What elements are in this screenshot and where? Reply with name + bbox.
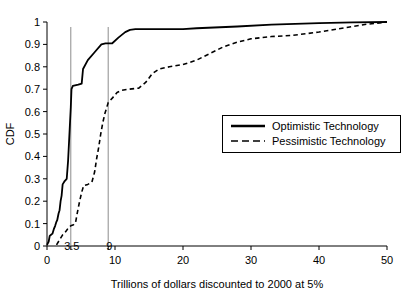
- x-axis-title: Trillions of dollars discounted to 2000 …: [111, 278, 324, 290]
- y-tick-label: 0.1: [25, 218, 40, 230]
- y-tick-label: 0.5: [25, 128, 40, 140]
- chart-legend: Optimistic Technology Pessimistic Techno…: [223, 116, 401, 153]
- legend-label-optimistic: Optimistic Technology: [272, 120, 379, 132]
- y-axis-title: CDF: [4, 122, 16, 145]
- reference-lines: [71, 27, 108, 246]
- chart-figure: 00.10.20.30.40.50.60.70.80.91 0102030405…: [0, 0, 411, 298]
- x-tick-label: 20: [177, 254, 189, 266]
- y-tick-label: 0.2: [25, 195, 40, 207]
- y-tick-label: 0: [34, 240, 40, 252]
- y-tick-label: 0.3: [25, 173, 40, 185]
- y-tick-label: 1: [34, 16, 40, 28]
- y-axis-tick-labels: 00.10.20.30.40.50.60.70.80.91: [25, 16, 40, 252]
- y-tick-label: 0.7: [25, 83, 40, 95]
- x-tick-label: 10: [109, 254, 121, 266]
- cdf-line-chart: 00.10.20.30.40.50.60.70.80.91 0102030405…: [0, 0, 411, 298]
- legend-label-pessimistic: Pessimistic Technology: [272, 135, 386, 147]
- x-axis-ticks: [47, 246, 387, 250]
- y-tick-label: 0.8: [25, 61, 40, 73]
- reference-label-9: 9: [106, 240, 112, 252]
- x-tick-label: 40: [313, 254, 325, 266]
- y-tick-label: 0.9: [25, 38, 40, 50]
- x-tick-label: 50: [381, 254, 393, 266]
- x-tick-label: 30: [245, 254, 257, 266]
- x-axis-tick-labels: 01020304050: [44, 254, 393, 266]
- y-tick-label: 0.4: [25, 150, 40, 162]
- y-tick-label: 0.6: [25, 106, 40, 118]
- x-tick-label: 0: [44, 254, 50, 266]
- y-axis-ticks: [43, 22, 47, 246]
- reference-label-3-5: 3.5: [64, 240, 79, 252]
